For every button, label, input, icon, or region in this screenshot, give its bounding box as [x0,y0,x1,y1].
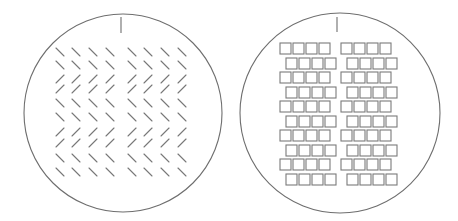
square-cell [347,145,358,156]
slash-segment [89,128,97,136]
square-cell [299,58,310,69]
square-cell [280,159,291,170]
slash-segment [128,85,136,93]
slash-segment [161,139,169,147]
square-cell [341,130,352,141]
slash-segment [72,128,80,136]
square-cell [354,72,365,83]
slash-segment [106,139,114,147]
left-circle-outline [24,14,222,212]
backslash-segment [128,99,136,107]
square-cell [380,72,391,83]
square-cell [306,159,317,170]
figure-canvas [0,0,458,221]
square-cell [319,159,330,170]
slash-segment [89,139,97,147]
right-circle-panel [240,13,440,213]
backslash-segment [106,48,114,56]
square-cell [280,43,291,54]
square-cell [386,87,397,98]
backslash-segment [178,154,186,162]
square-cell [386,145,397,156]
backslash-segment [106,61,114,69]
backslash-segment [144,48,152,56]
slash-segment [144,85,152,93]
slash-segment [72,75,80,83]
backslash-segment [89,154,97,162]
square-cell [360,145,371,156]
square-cell [306,72,317,83]
slash-segment [56,85,64,93]
slash-segment [106,85,114,93]
backslash-segment [161,61,169,69]
backslash-segment [106,99,114,107]
square-cell [380,159,391,170]
square-cell [354,159,365,170]
backslash-segment [128,48,136,56]
square-cell [373,174,384,185]
backslash-segment [128,113,136,121]
backslash-segment [72,61,80,69]
square-cell [312,174,323,185]
backslash-segment [161,99,169,107]
backslash-segment [72,113,80,121]
square-cell [380,130,391,141]
square-cell [319,101,330,112]
left-circle-panel [24,14,222,212]
square-cell [373,58,384,69]
slash-segment [144,128,152,136]
backslash-segment [161,168,169,176]
slash-segment [89,85,97,93]
square-cell [306,130,317,141]
square-cell [293,43,304,54]
backslash-segment [72,48,80,56]
square-cell [319,72,330,83]
backslash-segment [89,99,97,107]
square-cell [354,130,365,141]
square-cell [367,43,378,54]
square-cell [280,101,291,112]
backslash-segment [106,154,114,162]
backslash-segment [178,48,186,56]
backslash-segment [128,168,136,176]
square-cell [325,116,336,127]
backslash-segment [56,154,64,162]
backslash-segment [144,99,152,107]
square-cell [293,101,304,112]
square-cell [386,174,397,185]
backslash-segment [144,168,152,176]
square-cell [367,159,378,170]
square-cell [325,145,336,156]
backslash-segment [56,113,64,121]
square-cell [360,58,371,69]
square-cell [325,58,336,69]
slash-segment [89,75,97,83]
backslash-segment [161,48,169,56]
backslash-segment [161,113,169,121]
square-cell [325,87,336,98]
square-cell [347,58,358,69]
slash-segment [56,128,64,136]
slash-segment [178,85,186,93]
square-cell [380,43,391,54]
backslash-segment [178,61,186,69]
slash-segment [178,128,186,136]
square-cell [367,130,378,141]
square-cell [360,174,371,185]
backslash-segment [106,113,114,121]
slash-segment [56,75,64,83]
square-cell [280,130,291,141]
backslash-segment [106,168,114,176]
square-cell [341,72,352,83]
square-cell [293,72,304,83]
square-cell [367,72,378,83]
slash-segment [161,75,169,83]
backslash-segment [72,154,80,162]
slash-segment [178,139,186,147]
backslash-segment [144,154,152,162]
slash-segment [144,139,152,147]
square-cell [347,174,358,185]
square-cell [360,87,371,98]
slash-segment [72,139,80,147]
square-cell [286,87,297,98]
